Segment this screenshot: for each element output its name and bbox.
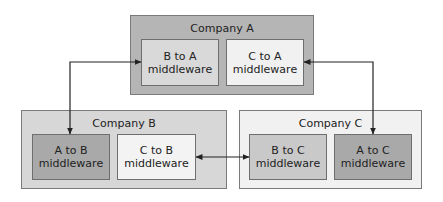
arrow-a-c [304, 62, 373, 134]
arrow-a-b [70, 62, 141, 134]
connector-arrows [0, 0, 443, 202]
